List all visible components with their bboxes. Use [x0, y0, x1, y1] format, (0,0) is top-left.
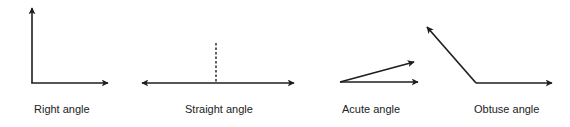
angle-types-diagram: Right angle Straight angle Acute angle O…: [0, 0, 570, 127]
obtuse-angle-figure: Obtuse angle: [427, 27, 552, 115]
right-angle-figure: Right angle: [31, 8, 108, 115]
acute-angle-figure: Acute angle: [340, 62, 418, 115]
obtuse-angle-label: Obtuse angle: [474, 103, 539, 115]
straight-angle-figure: Straight angle: [142, 43, 294, 115]
straight-angle-label: Straight angle: [185, 103, 253, 115]
acute-angle-upper-ray: [340, 62, 414, 82]
acute-angle-label: Acute angle: [342, 103, 400, 115]
right-angle-label: Right angle: [34, 103, 90, 115]
obtuse-angle-slanted-ray: [427, 27, 476, 83]
